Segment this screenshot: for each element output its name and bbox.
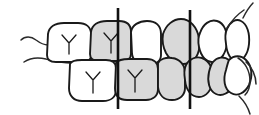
lower-molar-1 [69,60,116,101]
lower-premolar [158,58,185,100]
upper-lateral-incisor [198,21,227,63]
lower-molar-2 [115,59,158,100]
upper-molar-2 [90,21,131,61]
dental-diagram-canvas [0,0,259,115]
dental-occlusion-figure [0,0,259,115]
upper-molar-1 [47,23,91,62]
lower-central-incisor [224,56,251,94]
